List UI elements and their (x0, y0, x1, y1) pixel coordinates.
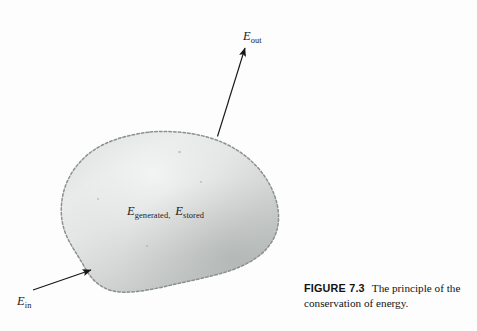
energy-in-arrow (33, 270, 91, 290)
energy-stored-subscript: stored (183, 211, 204, 220)
scan-speck (146, 245, 148, 247)
energy-in-symbol: E (17, 294, 25, 308)
interior-energy-labels: Egenerated,Estored (127, 201, 204, 220)
figure-caption: FIGURE 7.3The principle of the conservat… (304, 281, 472, 310)
scan-speck (97, 198, 99, 200)
energy-in-label: Ein (17, 291, 31, 310)
energy-stored-symbol: E (175, 204, 183, 218)
energy-generated-subscript: generated (135, 211, 168, 220)
energy-out-label: Eout (243, 26, 262, 45)
energy-out-subscript: out (251, 36, 262, 45)
energy-in-subscript: in (25, 301, 32, 310)
scan-speck (200, 181, 202, 183)
scan-speck (178, 151, 181, 153)
figure-page: Eout Ein Egenerated,Estored FIGURE 7.3Th… (0, 0, 477, 331)
figure-number: FIGURE 7.3 (304, 282, 365, 294)
label-separator: , (168, 211, 170, 220)
energy-out-arrow (218, 48, 246, 137)
energy-out-symbol: E (243, 29, 251, 43)
energy-generated-symbol: E (127, 204, 135, 218)
